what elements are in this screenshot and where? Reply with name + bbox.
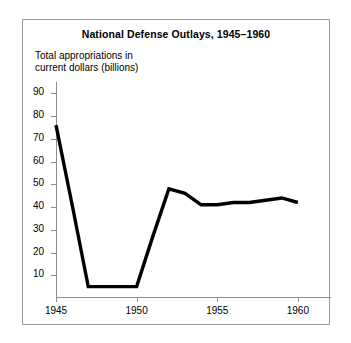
x-tick-label: 1945 (45, 305, 67, 316)
y-tick-label: 60 (33, 155, 44, 166)
y-tick-label: 70 (33, 132, 44, 143)
chart-title: National Defense Outlays, 1945–1960 (23, 28, 329, 40)
x-tick-label: 1960 (287, 305, 309, 316)
data-series-chart (56, 82, 314, 298)
y-tick-label: 50 (33, 177, 44, 188)
y-tick-label: 10 (33, 268, 44, 279)
y-axis-label-line-1: Total appropriations in (35, 50, 138, 62)
y-tick-label: 20 (33, 246, 44, 257)
y-tick-label: 40 (33, 200, 44, 211)
y-axis-label: Total appropriations in current dollars … (35, 50, 138, 73)
y-tick-label: 80 (33, 109, 44, 120)
x-tick-label: 1955 (206, 305, 228, 316)
plot-area: 102030405060708090 1945195019551960 (56, 82, 314, 297)
y-tick-label: 30 (33, 223, 44, 234)
y-axis-label-line-2: current dollars (billions) (35, 62, 138, 74)
y-tick-label: 90 (33, 86, 44, 97)
chart-figure: National Defense Outlays, 1945–1960 Tota… (22, 19, 330, 325)
x-tick-label: 1950 (126, 305, 148, 316)
defense-outlays-line (56, 125, 298, 286)
